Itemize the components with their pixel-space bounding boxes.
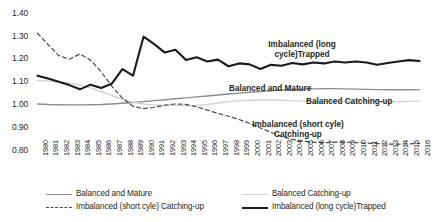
x-tick-label: 1989: [136, 140, 145, 156]
annotation-line-1: Balanced Catching-up: [306, 97, 392, 106]
annotation-balanced-catching-up: Balanced Catching-up: [306, 97, 392, 107]
x-tick-label: 2016: [423, 140, 432, 156]
x-tick-label: 2001: [264, 140, 273, 156]
x-tick-label: 2000: [253, 140, 262, 156]
x-tick-label: 1987: [115, 140, 124, 156]
x-tick-label: 2004: [295, 140, 304, 156]
x-tick-label: 1993: [179, 140, 188, 156]
x-tick-label: 2002: [274, 140, 283, 156]
x-tick-label: 1994: [189, 140, 198, 156]
x-tick-label: 2012: [380, 140, 389, 156]
x-tick-label: 2009: [348, 140, 357, 156]
x-tick-label: 1982: [62, 140, 71, 156]
annotation-line-2: cycle)Trapped: [274, 50, 329, 59]
series-line: [38, 37, 420, 90]
x-tick-label: 1988: [126, 140, 135, 156]
legend-swatch-solid-black-icon: [242, 202, 268, 211]
x-tick-label: 2014: [401, 140, 410, 156]
annotation-imbalanced-long: Imbalanced (long cycle)Trapped: [248, 40, 356, 59]
x-tick-label: 1996: [210, 140, 219, 156]
x-tick-label: 1991: [157, 140, 166, 156]
x-tick-label: 2011: [370, 141, 379, 156]
annotation-balanced-mature: Balanced and Mature: [229, 84, 311, 94]
x-tick-label: 2013: [391, 140, 400, 156]
x-tick-label: 1985: [94, 140, 103, 156]
annotation-line-1: Imbalanced (long: [268, 40, 335, 49]
annotation-line-1: Imbalanced (short cyle): [252, 120, 343, 129]
x-tick-label: 2007: [327, 140, 336, 156]
x-tick-label: 2010: [359, 140, 368, 156]
x-tick-label: 2015: [412, 140, 421, 156]
x-tick-label: 1998: [232, 140, 241, 156]
x-tick-label: 2003: [285, 140, 294, 156]
x-tick-label: 1999: [242, 140, 251, 156]
legend-label: Balanced and Mature: [76, 189, 152, 198]
x-tick-label: 1992: [168, 140, 177, 156]
x-tick-label: 1997: [221, 140, 230, 156]
annotation-line-1: Balanced and Mature: [229, 84, 311, 93]
chart-legend: Balanced and Mature Balanced Catching-up…: [46, 189, 418, 215]
x-tick-label: 1980: [41, 140, 50, 156]
legend-label: Imbalanced (short cyle) Catching-up: [76, 202, 204, 211]
x-tick-label: 2005: [306, 140, 315, 156]
x-tick-label: 1981: [51, 140, 60, 156]
annotation-line-2: Catching-up: [274, 130, 322, 139]
legend-item-balanced-and-mature[interactable]: Balanced and Mature: [46, 189, 152, 198]
legend-label: Balanced Catching-up: [272, 189, 351, 198]
legend-item-imbalanced-long-cycle[interactable]: Imbalanced (long cycle)Trapped: [242, 202, 386, 211]
x-tick-label: 2008: [338, 140, 347, 156]
x-tick-label: 1986: [104, 140, 113, 156]
legend-swatch-solid-lightgray-icon: [242, 189, 268, 198]
legend-swatch-dashed-icon: [46, 202, 72, 211]
x-tick-label: 1984: [83, 140, 92, 156]
x-tick-label: 1983: [73, 140, 82, 156]
legend-label: Imbalanced (long cycle)Trapped: [272, 202, 386, 211]
x-tick-label: 1995: [200, 140, 209, 156]
legend-item-balanced-catching-up[interactable]: Balanced Catching-up: [242, 189, 351, 198]
legend-item-imbalanced-short-cycle[interactable]: Imbalanced (short cyle) Catching-up: [46, 202, 204, 211]
annotation-imbalanced-short: Imbalanced (short cyle) Catching-up: [240, 120, 356, 139]
legend-swatch-solid-gray-icon: [46, 189, 72, 198]
x-tick-label: 1990: [147, 140, 156, 156]
x-tick-label: 2006: [317, 140, 326, 156]
